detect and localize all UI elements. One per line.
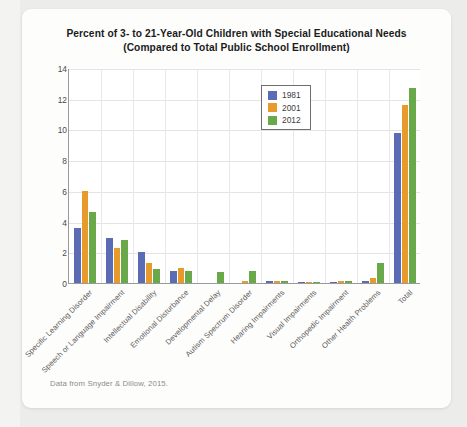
legend-item-1981[interactable]: 1981 [268, 90, 301, 100]
legend-item-2001[interactable]: 2001 [268, 103, 301, 113]
legend-label-2012: 2012 [282, 115, 301, 125]
bar-2012 [121, 240, 127, 283]
bar-1981 [298, 282, 304, 283]
page-background: Percent of 3- to 21-Year-Old Children wi… [0, 0, 467, 427]
bar-group [389, 69, 421, 283]
bar-group [101, 69, 133, 283]
bar-group [133, 69, 165, 283]
chart-legend[interactable]: 1981 2001 2012 [261, 85, 311, 130]
y-axis-tick-label: 10 [27, 125, 67, 135]
bar-1981 [170, 271, 176, 283]
bar-1981 [74, 228, 80, 283]
legend-swatch-icon-2001 [268, 103, 277, 112]
bar-group [357, 69, 389, 283]
bar-2012 [281, 281, 287, 283]
bar-2012 [313, 282, 319, 283]
legend-item-2012[interactable]: 2012 [268, 115, 301, 125]
bar-2001 [338, 281, 344, 283]
bar-group [325, 69, 357, 283]
legend-label-2001: 2001 [282, 103, 301, 113]
bar-2012 [89, 212, 95, 283]
x-axis-label: Emotional Disturbance [128, 288, 190, 350]
plot-area [68, 69, 420, 284]
y-axis-tick-label: 14 [27, 64, 67, 74]
bar-1981 [362, 281, 368, 283]
chart-title-line1: Percent of 3- to 21-Year-Old Children wi… [66, 28, 406, 39]
x-axis-label: Orthopedic Impairment [288, 288, 350, 350]
bar-group [197, 69, 229, 283]
legend-label-1981: 1981 [282, 90, 301, 100]
bar-2001 [178, 268, 184, 283]
bar-1981 [394, 133, 400, 284]
bar-2001 [242, 281, 248, 283]
y-axis-tick-label: 6 [27, 187, 67, 197]
plot-wrapper: 02468101214 Specific Learning DisorderSp… [68, 69, 420, 284]
y-axis-tick-label: 12 [27, 95, 67, 105]
bar-2001 [370, 278, 376, 283]
bar-2012 [185, 271, 191, 283]
bar-2001 [114, 248, 120, 283]
bar-1981 [138, 252, 144, 283]
bar-group [69, 69, 101, 283]
legend-swatch-icon-1981 [268, 91, 277, 100]
legend-swatch-icon-2012 [268, 116, 277, 125]
bar-2001 [306, 282, 312, 283]
bar-1981 [330, 282, 336, 283]
bar-2012 [377, 263, 383, 283]
bar-2012 [153, 269, 159, 283]
bar-2012 [345, 281, 351, 283]
bar-1981 [106, 238, 112, 283]
bar-2001 [402, 105, 408, 283]
bar-2001 [146, 263, 152, 283]
figure-card: Percent of 3- to 21-Year-Old Children wi… [22, 9, 451, 408]
bar-1981 [266, 281, 272, 283]
x-axis-label: Total [396, 288, 414, 306]
chart-title-line2: (Compared to Total Public School Enrollm… [22, 41, 451, 55]
bar-group [229, 69, 261, 283]
y-axis-tick-label: 2 [27, 248, 67, 258]
bar-2012 [409, 88, 415, 283]
bar-2012 [217, 272, 223, 283]
x-axis-label: Developmental Delay [164, 288, 223, 347]
bar-2012 [249, 271, 255, 283]
source-note: Data from Snyder & Dillow, 2015. [50, 379, 168, 388]
bar-2001 [274, 281, 280, 283]
bar-2001 [82, 191, 88, 283]
bar-group [165, 69, 197, 283]
y-axis-tick-label: 8 [27, 156, 67, 166]
y-axis-tick-label: 4 [27, 218, 67, 228]
x-axis-label: Other Health Problems [320, 288, 382, 350]
y-axis-tick-label: 0 [27, 279, 67, 289]
chart-title: Percent of 3- to 21-Year-Old Children wi… [22, 27, 451, 54]
page-left-margin [0, 0, 20, 427]
